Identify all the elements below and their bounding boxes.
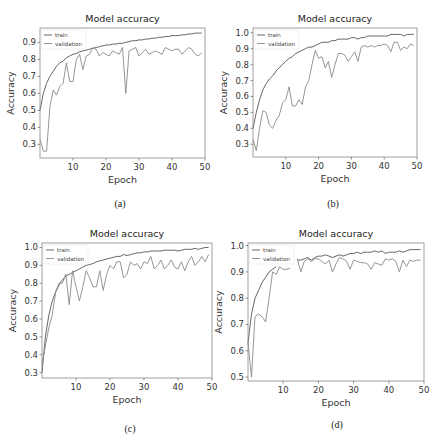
y-tick-label: 0.4 <box>235 123 249 133</box>
legend: trainvalidation <box>250 245 294 264</box>
x-tick-label: 30 <box>346 161 357 171</box>
legend-label-train: train <box>268 32 281 38</box>
chart-panel-a: Model accuracy0.30.40.50.60.70.80.910203… <box>0 0 220 220</box>
x-tick-label: 20 <box>101 162 112 172</box>
x-tick-label: 40 <box>167 162 178 172</box>
x-tick-label: 40 <box>173 382 184 392</box>
x-tick-label: 10 <box>280 161 291 171</box>
validation-line <box>42 255 209 364</box>
y-tick-label: 1.0 <box>235 28 249 38</box>
x-tick-label: 40 <box>379 161 390 171</box>
x-tick-label: 10 <box>71 382 82 392</box>
y-tick-label: 0.7 <box>24 296 38 306</box>
caption-c: (c) <box>110 423 150 434</box>
chart-panel-c: Model accuracy0.30.40.50.60.70.80.91.010… <box>0 220 220 441</box>
x-tick-label: 50 <box>200 162 211 172</box>
legend: trainvalidation <box>42 30 86 49</box>
y-tick-label: 0.6 <box>235 91 249 101</box>
validation-line <box>253 42 414 150</box>
x-tick-label: 50 <box>412 161 423 171</box>
chart-title: Model accuracy <box>85 13 160 24</box>
y-tick-label: 0.9 <box>24 260 38 270</box>
legend-label-validation: validation <box>57 256 85 262</box>
caption-a: (a) <box>100 198 140 209</box>
chart-title: Model accuracy <box>298 13 373 24</box>
validation-line <box>40 48 202 152</box>
legend-label-train: train <box>55 32 68 38</box>
x-tick-label: 50 <box>419 385 430 395</box>
y-tick-label: 0.7 <box>22 71 36 81</box>
y-tick-label: 0.8 <box>24 278 38 288</box>
y-tick-label: 0.8 <box>230 293 244 303</box>
legend-label-train: train <box>57 247 70 253</box>
x-tick-label: 10 <box>68 162 79 172</box>
legend: trainvalidation <box>255 30 299 49</box>
x-tick-label: 20 <box>313 161 324 171</box>
x-tick-label: 20 <box>313 385 324 395</box>
y-axis-label: Accuracy <box>7 288 18 332</box>
legend-label-validation: validation <box>263 256 291 262</box>
chart-panel-b: Model accuracy0.30.40.50.60.70.80.91.010… <box>220 0 441 220</box>
chart-panel-d: Model accuracy0.50.60.70.80.91.010203040… <box>220 220 441 441</box>
y-tick-label: 0.3 <box>22 139 36 149</box>
y-tick-label: 0.6 <box>24 314 38 324</box>
y-tick-label: 0.9 <box>22 37 36 47</box>
y-tick-label: 0.6 <box>230 346 244 356</box>
x-axis-label: Epoch <box>321 397 350 408</box>
y-tick-label: 1.0 <box>230 241 244 251</box>
y-axis-label: Accuracy <box>5 71 16 115</box>
validation-line <box>248 267 290 377</box>
x-tick-label: 40 <box>383 385 394 395</box>
y-tick-label: 0.9 <box>235 44 249 54</box>
caption-b: (b) <box>313 198 353 209</box>
caption-d: (d) <box>317 419 357 430</box>
chart-c-svg: Model accuracy0.30.40.50.60.70.80.91.010… <box>0 220 220 441</box>
y-tick-label: 0.3 <box>24 368 38 378</box>
y-tick-label: 0.6 <box>22 88 36 98</box>
legend-label-validation: validation <box>268 41 296 47</box>
y-tick-label: 0.5 <box>235 107 249 117</box>
legend-label-validation: validation <box>55 41 83 47</box>
chart-b-svg: Model accuracy0.30.40.50.60.70.80.91.010… <box>220 0 441 220</box>
x-axis-label: Epoch <box>320 173 349 184</box>
chart-title: Model accuracy <box>299 228 374 239</box>
x-tick-label: 30 <box>134 162 145 172</box>
train-line <box>42 248 209 373</box>
chart-title: Model accuracy <box>90 228 165 239</box>
x-tick-label: 10 <box>278 385 289 395</box>
legend: trainvalidation <box>44 245 88 264</box>
x-axis-label: Epoch <box>112 394 141 405</box>
x-tick-label: 20 <box>105 382 116 392</box>
y-tick-label: 0.5 <box>24 332 38 342</box>
y-tick-label: 0.8 <box>235 60 249 70</box>
y-tick-label: 0.7 <box>230 319 244 329</box>
y-tick-label: 0.8 <box>22 54 36 64</box>
chart-d-svg: Model accuracy0.50.60.70.80.91.010203040… <box>220 220 441 441</box>
y-tick-label: 0.4 <box>22 122 36 132</box>
y-tick-label: 0.3 <box>235 139 249 149</box>
legend-label-train: train <box>263 247 276 253</box>
validation-line <box>297 258 420 272</box>
x-tick-label: 30 <box>139 382 150 392</box>
y-tick-label: 0.7 <box>235 76 249 86</box>
chart-a-svg: Model accuracy0.30.40.50.60.70.80.910203… <box>0 0 220 220</box>
y-tick-label: 0.5 <box>230 372 244 382</box>
x-axis-label: Epoch <box>108 174 137 185</box>
y-axis-label: Accuracy <box>213 290 224 334</box>
y-tick-label: 0.5 <box>22 105 36 115</box>
y-tick-label: 0.9 <box>230 267 244 277</box>
y-tick-label: 0.4 <box>24 350 38 360</box>
y-axis-label: Accuracy <box>218 70 229 114</box>
x-tick-label: 30 <box>348 385 359 395</box>
y-tick-label: 1.0 <box>24 242 38 252</box>
x-tick-label: 50 <box>207 382 218 392</box>
